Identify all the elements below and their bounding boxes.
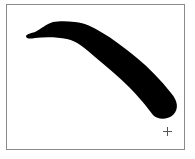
- brush-stroke-path: [26, 21, 177, 119]
- drawing-canvas[interactable]: [6, 4, 185, 150]
- crosshair-cursor-icon: [163, 127, 172, 136]
